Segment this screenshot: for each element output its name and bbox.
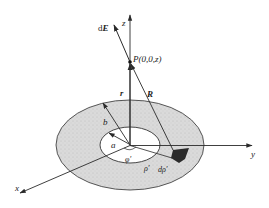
dE-label: dE xyxy=(98,23,109,33)
dE-vector xyxy=(114,25,130,62)
annular-disk-field-diagram: z y x dE P(0,0,z) r R b a φ′ ρ′ dρ′ xyxy=(0,0,269,208)
inner-radius-label: a xyxy=(111,140,116,150)
y-axis-label: y xyxy=(250,149,255,159)
r-vector-label: r xyxy=(120,88,124,98)
x-axis-label: x xyxy=(14,183,19,193)
azimuth-label: φ′ xyxy=(125,155,131,164)
radial-coord-label: ρ′ xyxy=(143,164,150,173)
R-vector-label: R xyxy=(146,89,153,99)
point-P-marker xyxy=(128,60,132,64)
outer-radius-label: b xyxy=(103,117,108,127)
radial-increment-label: dρ′ xyxy=(158,165,168,174)
point-P-label: P(0,0,z) xyxy=(132,54,162,64)
z-axis-label: z xyxy=(121,18,126,28)
